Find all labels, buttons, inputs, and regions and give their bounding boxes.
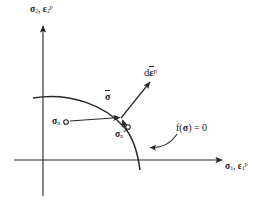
sigma-n-subscript: n	[57, 120, 60, 126]
trial-stress-return-vector	[70, 118, 120, 122]
figure-canvas	[0, 0, 267, 203]
y-axis-label: σ2, ε2p	[30, 5, 53, 15]
sigma-n-star-point-marker	[126, 125, 131, 130]
yield-function-prefix: f(	[176, 122, 183, 133]
yield-function-label: f(σ) = 0	[176, 123, 207, 133]
yield-function-suffix: ) = 0	[188, 122, 207, 133]
x-axis-label: σ1, ε1p	[225, 162, 248, 172]
sigma-n-label: σn	[52, 117, 60, 127]
sigma-n-star-superscript: *	[123, 129, 126, 135]
sigma-n-star-label: σn*	[115, 130, 126, 140]
y-axis-epsilon-superscript: p	[50, 4, 53, 10]
sigma-n-point-marker	[64, 120, 69, 125]
epsilon-superscript-p: p	[154, 67, 157, 74]
plasticity-return-mapping-figure: σ2, ε2p σ1, ε1p σ dεp σn σn* f(σ) = 0	[0, 0, 267, 203]
x-axis-epsilon-superscript: p	[245, 161, 248, 167]
plastic-strain-increment-label: dεp	[144, 68, 157, 79]
sigma-bar-symbol: σ	[105, 92, 110, 102]
epsilon-bar-symbol: ε	[149, 68, 154, 79]
sigma-bar-label: σ	[105, 92, 110, 102]
yield-function-leader-line	[150, 134, 177, 148]
plastic-strain-increment-vector	[121, 82, 150, 118]
